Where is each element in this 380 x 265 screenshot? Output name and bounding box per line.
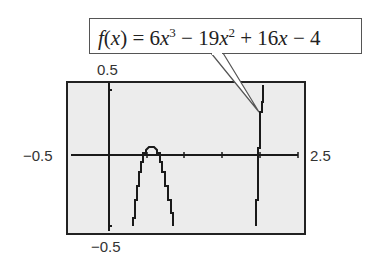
callout-pointer — [211, 53, 259, 112]
function-callout: f(x) = 6x3 − 19x2 + 16x − 4 — [89, 18, 362, 54]
curve-hump — [133, 147, 173, 226]
function-formula: f(x) = 6x3 − 19x2 + 16x − 4 — [98, 25, 321, 51]
curve-left-branch — [109, 90, 112, 226]
